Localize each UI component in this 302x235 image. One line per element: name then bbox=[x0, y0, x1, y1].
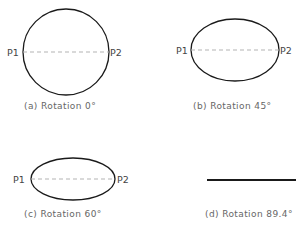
point-label-p1: P1 bbox=[13, 174, 25, 185]
caption-c: (c) Rotation 60° bbox=[24, 209, 102, 219]
point-label-p1: P1 bbox=[7, 47, 19, 58]
point-label-p2: P2 bbox=[117, 174, 129, 185]
panel-d: (d) Rotation 89.4° bbox=[205, 180, 296, 219]
rotation-diagram: P1 P2 (a) Rotation 0° P1 P2 (b) Rotation… bbox=[0, 0, 302, 235]
panel-b: P1 P2 (b) Rotation 45° bbox=[176, 19, 292, 111]
panel-a: P1 P2 (a) Rotation 0° bbox=[7, 9, 122, 111]
panel-c: P1 P2 (c) Rotation 60° bbox=[13, 158, 129, 219]
caption-d: (d) Rotation 89.4° bbox=[205, 209, 293, 219]
point-label-p1: P1 bbox=[176, 45, 188, 56]
point-label-p2: P2 bbox=[280, 45, 292, 56]
caption-a: (a) Rotation 0° bbox=[24, 101, 96, 111]
point-label-p2: P2 bbox=[110, 47, 122, 58]
caption-b: (b) Rotation 45° bbox=[193, 101, 271, 111]
